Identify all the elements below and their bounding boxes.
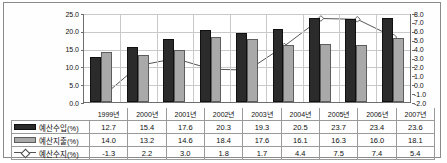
- bar-expenditure: [393, 38, 404, 102]
- bar-revenue: [90, 57, 101, 102]
- table-cell: 4.4: [281, 147, 319, 160]
- axis-tickmark: [81, 32, 84, 33]
- table-cell: 17.6: [243, 134, 281, 147]
- bar-revenue: [163, 39, 174, 102]
- axis-tickmark: [81, 85, 84, 86]
- table-cell: 16.1: [281, 134, 319, 147]
- table-year-header: 2004년: [281, 108, 319, 121]
- category-separator: [339, 14, 340, 102]
- left-axis-tick: 25.0: [65, 11, 79, 18]
- category-separator: [303, 14, 304, 102]
- table-cell: 3.0: [166, 147, 204, 160]
- right-axis-tick: 3.0: [414, 55, 444, 62]
- table-year-header: 2005년: [319, 108, 357, 121]
- table-cell: 2.2: [128, 147, 166, 160]
- category-separator: [266, 14, 267, 102]
- left-axis-tick: 0.0: [69, 100, 79, 107]
- table-cell: 23.6: [396, 121, 434, 134]
- table-row: 예산수입(%)12.715.417.620.319.320.523.723.42…: [12, 121, 435, 134]
- table-row-label: 예산지출(%): [12, 134, 90, 147]
- plot-area-wrapper: 25.020.015.010.05.00.0 8.07.06.05.04.03.…: [4, 3, 442, 108]
- table-cell: 14.6: [166, 134, 204, 147]
- chart-frame: 25.020.015.010.05.00.0 8.07.06.05.04.03.…: [3, 2, 441, 158]
- bar-expenditure: [283, 45, 294, 102]
- table-year-header: 2007년: [396, 108, 434, 121]
- table-cell: 19.3: [243, 121, 281, 134]
- legend-swatch-revenue: [14, 124, 36, 130]
- bar-expenditure: [356, 45, 367, 102]
- table-cell: 14.0: [90, 134, 128, 147]
- table-year-header: 1999년: [90, 108, 128, 121]
- axis-tickmark: [81, 50, 84, 51]
- table-year-header: 2006년: [358, 108, 396, 121]
- legend-label: 예산수입(%): [39, 124, 79, 133]
- table-cell: -1.3: [90, 147, 128, 160]
- table-year-header: 2001년: [166, 108, 204, 121]
- axis-tickmark: [81, 14, 84, 15]
- table-row: 예산수지(%)-1.32.23.01.81.74.47.57.45.4: [12, 147, 435, 160]
- right-axis-tick: 6.0: [414, 28, 444, 35]
- bar-revenue: [127, 47, 138, 102]
- right-axis-labels: 8.07.06.05.04.03.02.01.00.0-1.0-2.0: [414, 14, 444, 103]
- bar-revenue: [200, 30, 211, 102]
- table-cell: 20.3: [204, 121, 242, 134]
- bar-expenditure: [320, 44, 331, 102]
- right-axis-tick: 4.0: [414, 46, 444, 53]
- axis-tickmark: [81, 103, 84, 104]
- right-axis-tick: -2.0: [414, 100, 444, 107]
- table-cell: 16.3: [319, 134, 357, 147]
- right-axis-tick: -1.0: [414, 91, 444, 98]
- legend-label: 예산지출(%): [39, 137, 79, 146]
- bar-expenditure: [138, 55, 149, 102]
- category-separator: [120, 14, 121, 102]
- table-cell: 15.4: [128, 121, 166, 134]
- legend-swatch-expenditure: [14, 137, 36, 143]
- table-cell: 7.5: [319, 147, 357, 160]
- bar-expenditure: [174, 50, 185, 102]
- table-year-header: 2003년: [243, 108, 281, 121]
- table-cell: 18.4: [204, 134, 242, 147]
- category-separator: [157, 14, 158, 102]
- table-year-header: 2002년: [204, 108, 242, 121]
- table-cell: 16.0: [358, 134, 396, 147]
- bar-revenue: [236, 33, 247, 102]
- right-axis-tick: 5.0: [414, 37, 444, 44]
- gridline: [84, 32, 410, 33]
- table-cell: 1.7: [243, 147, 281, 160]
- left-axis-tick: 15.0: [65, 46, 79, 53]
- table-year-header: 2000년: [128, 108, 166, 121]
- table-cell: 18.1: [396, 134, 434, 147]
- right-axis-tick: 2.0: [414, 64, 444, 71]
- legend-label: 예산수지(%): [39, 150, 79, 159]
- plot-area: [83, 14, 411, 103]
- bar-expenditure: [101, 52, 112, 102]
- table-cell: 13.2: [128, 134, 166, 147]
- table-row: 예산지출(%)14.013.214.618.417.616.116.316.01…: [12, 134, 435, 147]
- bar-revenue: [382, 18, 393, 102]
- category-separator: [230, 14, 231, 102]
- right-axis-tick: 8.0: [414, 11, 444, 18]
- left-axis-labels: 25.020.015.010.05.00.0: [34, 14, 79, 103]
- table-year-row: 1999년2000년2001년2002년2003년2004년2005년2006년…: [12, 108, 435, 121]
- axis-tickmark: [81, 67, 84, 68]
- table-cell: 1.8: [204, 147, 242, 160]
- table-corner-cell: [12, 108, 90, 121]
- left-axis-tick: 10.0: [65, 64, 79, 71]
- bar-revenue: [273, 29, 284, 102]
- table-cell: 23.4: [358, 121, 396, 134]
- chart-data-table: 1999년2000년2001년2002년2003년2004년2005년2006년…: [11, 108, 435, 160]
- right-axis-tick: 1.0: [414, 73, 444, 80]
- table-cell: 5.4: [396, 147, 434, 160]
- table-row-label: 예산수지(%): [12, 147, 90, 160]
- bar-revenue: [345, 19, 356, 102]
- bar-expenditure: [211, 37, 222, 103]
- table-row-label: 예산수입(%): [12, 121, 90, 134]
- left-axis-tick: 5.0: [69, 82, 79, 89]
- category-separator: [376, 14, 377, 102]
- bar-revenue: [309, 18, 320, 102]
- right-axis-tick: 0.0: [414, 82, 444, 89]
- table-cell: 7.4: [358, 147, 396, 160]
- table-cell: 23.7: [319, 121, 357, 134]
- table-cell: 12.7: [90, 121, 128, 134]
- bar-expenditure: [247, 39, 258, 102]
